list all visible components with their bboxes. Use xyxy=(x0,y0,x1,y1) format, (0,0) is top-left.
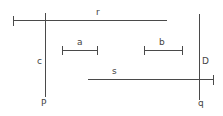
diagram-canvas xyxy=(0,0,223,116)
label-line-r: r xyxy=(96,8,100,17)
label-segment-a: a xyxy=(77,38,83,47)
label-vertical-right-q: q xyxy=(198,99,204,108)
label-vertical-left-c: c xyxy=(37,57,42,66)
label-vertical-left-p: P xyxy=(41,99,46,108)
label-segment-b: b xyxy=(159,38,165,47)
label-line-s: s xyxy=(112,67,117,76)
label-vertical-right-d: D xyxy=(202,57,209,66)
geometry-diagram: r a b s c P D q xyxy=(0,0,223,116)
